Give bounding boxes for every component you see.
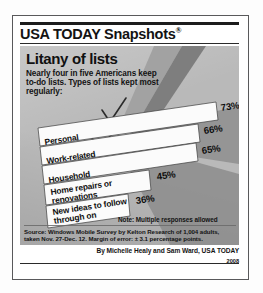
byline-credit: By Michelle Healy and Sam Ward, USA TODA… (20, 247, 239, 255)
byline-block: By Michelle Healy and Sam Ward, USA TODA… (20, 247, 239, 265)
chart-note: Note: Multiple responses allowed (118, 216, 236, 223)
byline-rule (20, 263, 239, 264)
chart-panel: Litany of lists Nearly four in five Amer… (20, 46, 239, 245)
source-rule (24, 225, 236, 226)
registered-mark: ® (175, 26, 181, 35)
headline-block: Litany of lists Nearly four in five Amer… (26, 50, 161, 97)
snapshot-page: USA TODAY Snapshots® (0, 0, 263, 293)
masthead-title: USA TODAY Snapshots® (20, 25, 239, 42)
brand-label: USA TODAY Snapshots (20, 26, 175, 43)
page-title: Litany of lists (26, 50, 161, 67)
bar-value-1: 73% (220, 99, 239, 113)
infographic-frame: USA TODAY Snapshots® (12, 15, 249, 280)
headline-subtitle: Nearly four in five Americans keep to-do… (26, 69, 161, 97)
source-text: Source: Windows Mobile Survey by Kelton … (24, 228, 219, 242)
bar-value-5: 36% (135, 192, 155, 206)
bar-value-4: 45% (156, 168, 176, 182)
bar-value-3: 65% (201, 142, 221, 156)
masthead-rule-bottom (20, 43, 239, 44)
bar-value-2: 66% (203, 122, 223, 136)
chart-source: Source: Windows Mobile Survey by Kelton … (24, 228, 236, 243)
masthead: USA TODAY Snapshots® (20, 22, 239, 44)
